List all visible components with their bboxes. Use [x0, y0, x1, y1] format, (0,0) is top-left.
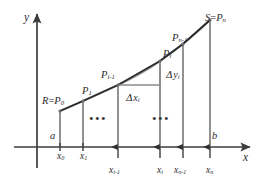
point-label-P1-sub: 1 — [88, 89, 91, 96]
marker-P0 — [58, 109, 61, 112]
tick-label-xi-1: xi-1 — [109, 166, 120, 176]
y-axis-label: y — [24, 12, 29, 24]
tick-label-xn: xn — [206, 166, 213, 176]
point-label-Pn-1: Pn-1 — [172, 33, 187, 44]
arc-length-figure: y x a b R=P0 P1 Pi-1 Pi Pn-1 S=Pn Δxi Δy… — [0, 0, 266, 185]
point-label-P1: P1 — [82, 86, 92, 97]
axis-ticks-arrow — [118, 147, 210, 158]
tick-label-xi: xi — [157, 166, 163, 176]
x-axis-label: x — [243, 152, 248, 164]
point-label-Pn-1-sub: n-1 — [178, 36, 187, 43]
interval-right-endpoint-label: b — [212, 131, 217, 142]
point-label-Pi-1: Pi-1 — [101, 70, 115, 81]
ellipsis-right: ••• — [152, 112, 170, 125]
interval-left-endpoint-label: a — [50, 131, 55, 142]
delta-y-label: Δyi — [166, 70, 179, 81]
tick-label-xn-1: xn-1 — [174, 166, 186, 176]
tick-label-xi-sub: i — [161, 169, 163, 175]
delta-x-label: Δxi — [126, 93, 139, 104]
tick-label-x1: x1 — [80, 152, 87, 162]
tick-label-x0: x0 — [57, 152, 64, 162]
delta-x-sub: i — [138, 96, 140, 103]
marker-P1 — [81, 99, 84, 102]
tick-label-x1-sub: 1 — [84, 155, 87, 161]
tick-label-xn-1-sub: n-1 — [178, 169, 186, 175]
marker-Pi — [158, 59, 161, 62]
tick-label-x0-sub: 0 — [61, 155, 64, 161]
tick-label-xn-sub: n — [210, 169, 213, 175]
tick-label-xi-1-sub: i-1 — [113, 169, 120, 175]
delta-y-sub: i — [178, 73, 180, 80]
point-label-Pn-sub: n — [223, 16, 226, 23]
point-label-Pn: S=Pn — [205, 13, 226, 24]
ellipsis-left: ••• — [89, 112, 107, 125]
point-label-Pi-sub: i — [169, 52, 171, 59]
point-label-P0: R=P0 — [42, 96, 64, 107]
chord-Pi-1-Pi — [118, 61, 160, 85]
point-label-Pi: Pi — [163, 49, 171, 60]
point-label-P0-sub: 0 — [61, 99, 64, 106]
marker-Pi-1 — [116, 83, 119, 86]
point-label-Pi-1-sub: i-1 — [107, 73, 114, 80]
